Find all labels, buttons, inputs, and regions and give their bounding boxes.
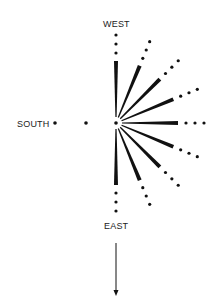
ray-dot: [179, 95, 182, 98]
south-dots: [53, 121, 88, 125]
ray-dot: [145, 194, 148, 197]
ray: [122, 121, 178, 125]
ray-dot: [184, 121, 187, 124]
ray: [114, 61, 118, 117]
ray-dot: [141, 57, 144, 60]
ray-dot: [196, 88, 199, 91]
ray-dot: [114, 51, 117, 54]
ray-dot: [114, 209, 117, 212]
ray-dot: [114, 200, 117, 203]
ray-dot: [164, 171, 167, 174]
label-east: EAST: [104, 221, 129, 231]
ray-dot: [148, 203, 151, 206]
radiating-rays-diagram: WEST SOUTH EAST: [0, 0, 221, 302]
label-south: SOUTH: [17, 119, 50, 129]
ray-dot: [187, 91, 190, 94]
ray-dot: [170, 177, 173, 180]
ray-dot: [196, 155, 199, 158]
south-dot: [53, 121, 57, 125]
ray-dot: [141, 186, 144, 189]
ray-fan: [114, 61, 178, 185]
ray-dot: [164, 72, 167, 75]
ray-dot: [170, 66, 173, 69]
label-west: WEST: [103, 19, 130, 29]
ray-dot: [202, 121, 205, 124]
ray-dot: [145, 48, 148, 51]
ray-dot: [114, 42, 117, 45]
ray-dot: [177, 59, 180, 62]
ray-dot: [193, 121, 196, 124]
ray-dot: [114, 191, 117, 194]
ray-dot: [187, 152, 190, 155]
south-dot: [84, 121, 88, 125]
center-dot: [114, 121, 118, 125]
downward-arrow-icon: [114, 243, 119, 296]
ray-dot: [177, 184, 180, 187]
ray-dot: [148, 40, 151, 43]
diagram-canvas: WEST SOUTH EAST: [0, 0, 221, 302]
ray: [114, 129, 118, 185]
ray-dot: [179, 148, 182, 151]
ray-dot: [114, 33, 117, 36]
